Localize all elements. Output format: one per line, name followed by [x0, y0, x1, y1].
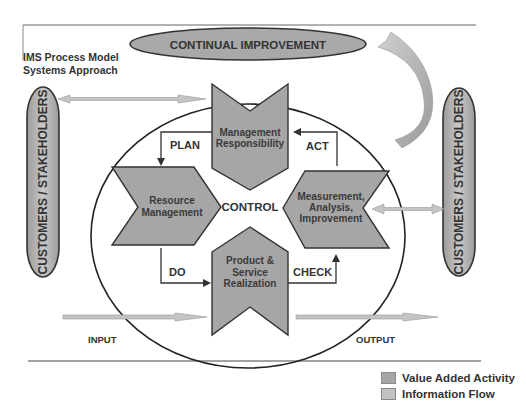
plan-arrowhead: [157, 158, 165, 166]
do-label: DO: [169, 266, 186, 278]
legend-item-info-flow: Information Flow: [381, 386, 515, 402]
product-line3: Realization: [224, 278, 277, 289]
title-line2: Systems Approach: [23, 64, 119, 77]
mgmt-line2: Responsibility: [216, 138, 285, 149]
output-label: OUTPUT: [356, 334, 395, 345]
input-label: INPUT: [88, 334, 117, 345]
title-line1: IMS Process Model: [23, 51, 119, 64]
measure-line1: Measurement,: [297, 191, 364, 202]
value-added-swatch-icon: [381, 372, 396, 384]
product-line2: Service: [232, 267, 268, 278]
info-flow-arrow-top: [58, 95, 206, 103]
diagram-title: IMS Process Model Systems Approach: [23, 51, 119, 77]
customers-left-label: CUSTOMERS / STAKEHOLDERS: [36, 90, 50, 275]
customers-right-label: CUSTOMERS / STAKEHOLDERS: [452, 90, 466, 275]
mgmt-line1: Management: [219, 127, 281, 138]
do-arrowhead: [203, 279, 211, 287]
act-arrowhead: [293, 128, 301, 136]
input-arrow: [63, 313, 207, 321]
output-arrow: [296, 313, 438, 321]
resource-line1: Resource: [149, 195, 195, 206]
check-arrowhead: [332, 254, 340, 262]
info-flow-arrow-right: [372, 204, 444, 214]
resource-line2: Management: [141, 207, 203, 218]
legend-label: Information Flow: [402, 388, 495, 400]
product-line1: Product &: [226, 255, 274, 266]
continual-improvement-label: CONTINUAL IMPROVEMENT: [170, 39, 326, 51]
legend-label: Value Added Activity: [402, 372, 515, 384]
control-label: CONTROL: [222, 201, 279, 213]
improvement-curved-arrow: [378, 32, 433, 148]
info-flow-swatch-icon: [381, 388, 396, 400]
plan-label: PLAN: [170, 139, 200, 151]
legend: Value Added Activity Information Flow: [381, 370, 515, 402]
process-resource-management: [112, 167, 221, 245]
measure-line2: Analysis,: [309, 202, 353, 213]
check-label: CHECK: [293, 266, 332, 278]
measure-line3: Improvement: [300, 213, 363, 224]
legend-item-value-added: Value Added Activity: [381, 370, 515, 386]
act-label: ACT: [306, 140, 329, 152]
